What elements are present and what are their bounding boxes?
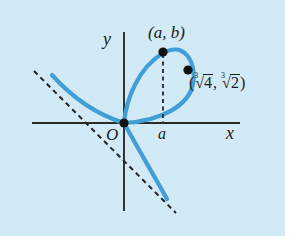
curve-loop: [124, 50, 194, 123]
graph-canvas: [0, 0, 294, 245]
x-tick-label-a: a: [158, 126, 166, 142]
radical-index-3-second: 3: [221, 72, 225, 80]
point-cuberoots-label: (3√4, 3√2): [189, 74, 245, 91]
y-axis-label: y: [103, 30, 111, 48]
origin-point: [119, 118, 128, 127]
point-ab-marker: [158, 47, 167, 56]
cube-root-2: 3√2: [221, 74, 240, 91]
radicand-2: 2: [230, 74, 240, 91]
origin-label: O: [106, 126, 118, 143]
point-ab-label: (a, b): [148, 24, 185, 41]
comma-separator: ,: [213, 74, 221, 91]
math-figure: y x O a (a, b) (3√4, 3√2): [0, 0, 294, 245]
cube-root-4: 3√4: [194, 74, 213, 91]
radicand-4: 4: [203, 74, 213, 91]
radical-index-3-first: 3: [194, 72, 198, 80]
asymptote-dashed-line: [34, 71, 176, 213]
x-axis-label: x: [226, 124, 234, 142]
paren-close: ): [240, 74, 245, 91]
